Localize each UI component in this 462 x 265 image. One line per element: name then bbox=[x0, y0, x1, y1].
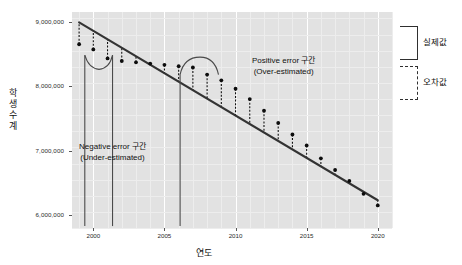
annotation-negative-error-line1: Negative error 구간 bbox=[79, 141, 146, 152]
gridline-horizontal-5800000 bbox=[72, 228, 392, 229]
gridline-horizontal-8800000 bbox=[72, 35, 392, 36]
x-axis-tick-label: 2005 bbox=[144, 232, 184, 239]
legend-bracket-dashed-icon bbox=[400, 66, 418, 100]
x-axis-tick-label: 2020 bbox=[358, 232, 398, 239]
annotation-positive-error: Positive error 구간 (Over-estimated) bbox=[252, 55, 315, 77]
y-axis-tick-mark bbox=[69, 215, 72, 216]
gridline-horizontal-6300000 bbox=[72, 196, 392, 197]
legend-bracket-solid-icon bbox=[400, 26, 418, 60]
legend-label-error: 오차값 bbox=[423, 75, 447, 87]
gridline-horizontal-7550000 bbox=[72, 115, 392, 116]
x-axis-title: 연도 bbox=[196, 246, 212, 259]
y-axis-tick-mark bbox=[69, 86, 72, 87]
plot-area bbox=[72, 12, 392, 228]
annotation-negative-error-line2: (Under-estimated) bbox=[79, 152, 146, 163]
annotation-positive-error-line1: Positive error 구간 bbox=[252, 55, 315, 66]
gridline-horizontal-8050000 bbox=[72, 83, 392, 84]
y-axis-title: 학생수계 bbox=[6, 88, 20, 132]
y-axis-tick-mark bbox=[69, 151, 72, 152]
legend: 실제값 오차값 bbox=[400, 22, 460, 102]
legend-label-actual: 실제값 bbox=[423, 35, 447, 47]
chart-figure: 9,000,0008,000,0007,000,0006,000,000 200… bbox=[0, 0, 462, 265]
gridline-horizontal-6550000 bbox=[72, 180, 392, 181]
gridline-horizontal-7800000 bbox=[72, 99, 392, 100]
y-axis-tick-label: 9,000,000 bbox=[0, 18, 64, 25]
x-axis-tick-mark bbox=[164, 228, 165, 231]
y-axis-tick-label: 7,000,000 bbox=[0, 147, 64, 154]
legend-entry-error: 오차값 bbox=[400, 62, 460, 102]
gridline-horizontal-7300000 bbox=[72, 131, 392, 132]
y-axis-tick-label: 6,000,000 bbox=[0, 211, 64, 218]
gridline-horizontal-9050000 bbox=[72, 18, 392, 19]
y-axis-tick-mark bbox=[69, 22, 72, 23]
x-axis-tick-label: 2000 bbox=[73, 232, 113, 239]
x-axis-tick-mark bbox=[307, 228, 308, 231]
annotation-negative-error: Negative error 구간 (Under-estimated) bbox=[79, 141, 146, 163]
x-axis-tick-mark bbox=[378, 228, 379, 231]
gridline-horizontal-8550000 bbox=[72, 51, 392, 52]
x-axis-tick-label: 2015 bbox=[287, 232, 327, 239]
x-axis-tick-mark bbox=[93, 228, 94, 231]
gridline-horizontal-6050000 bbox=[72, 212, 392, 213]
legend-entry-actual: 실제값 bbox=[400, 22, 460, 62]
gridline-vertical-2021 bbox=[392, 12, 393, 228]
gridline-horizontal-8300000 bbox=[72, 67, 392, 68]
x-axis-tick-mark bbox=[236, 228, 237, 231]
x-axis-tick-label: 2010 bbox=[216, 232, 256, 239]
annotation-positive-error-line2: (Over-estimated) bbox=[252, 66, 315, 77]
gridline-horizontal-6800000 bbox=[72, 164, 392, 165]
